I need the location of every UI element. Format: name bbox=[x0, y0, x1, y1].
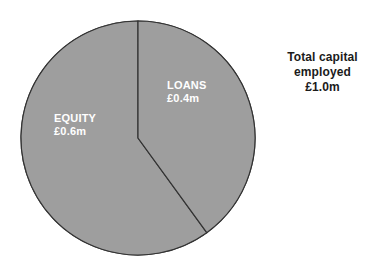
pie-slice-label-loans-value: £0.4m bbox=[167, 92, 207, 105]
pie-slice-label-loans: LOANS £0.4m bbox=[167, 79, 207, 105]
capital-employed-pie-chart: LOANS £0.4m EQUITY £0.6m Total capital e… bbox=[0, 0, 377, 268]
annotation-line-2: employed bbox=[268, 65, 377, 80]
pie-slice-label-equity-name: EQUITY bbox=[54, 112, 96, 125]
annotation-line-3-total-value: £1.0m bbox=[268, 80, 377, 95]
annotation-line-1: Total capital bbox=[268, 50, 377, 65]
pie-slice-label-equity-value: £0.6m bbox=[54, 125, 96, 138]
pie-slice-label-equity: EQUITY £0.6m bbox=[54, 112, 96, 138]
total-capital-employed-annotation: Total capital employed £1.0m bbox=[268, 50, 377, 95]
pie-slice-label-loans-name: LOANS bbox=[167, 79, 207, 92]
